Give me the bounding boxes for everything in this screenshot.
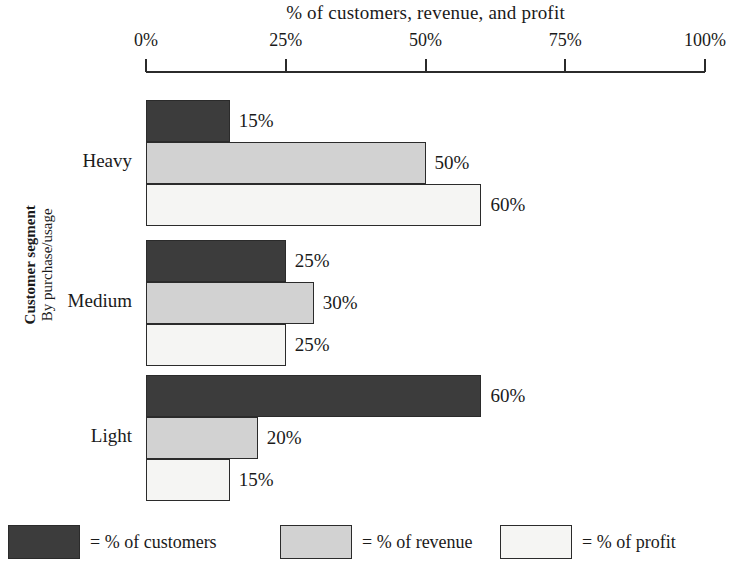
legend-swatch-revenue bbox=[280, 525, 352, 559]
bar-row: 60% bbox=[146, 375, 705, 417]
bar-revenue[interactable] bbox=[146, 142, 426, 184]
bar-group: Light60%20%15% bbox=[0, 375, 735, 501]
legend-label: = % of profit bbox=[582, 532, 676, 553]
bar-value-label: 25% bbox=[286, 334, 330, 356]
bar-group: Medium25%30%25% bbox=[0, 240, 735, 366]
bar-value-label: 30% bbox=[314, 292, 358, 314]
legend-label: = % of customers bbox=[90, 532, 217, 553]
category-label: Light bbox=[0, 425, 132, 447]
bar-customers[interactable] bbox=[146, 240, 286, 282]
bar-value-label: 25% bbox=[286, 250, 330, 272]
bar-row: 30% bbox=[146, 282, 705, 324]
bar-value-label: 15% bbox=[230, 110, 274, 132]
bar-customers[interactable] bbox=[146, 100, 230, 142]
legend-item-customers[interactable]: = % of customers bbox=[8, 524, 217, 560]
legend-label: = % of revenue bbox=[362, 532, 473, 553]
bar-row: 60% bbox=[146, 184, 705, 226]
bar-row: 20% bbox=[146, 417, 705, 459]
bar-row: 15% bbox=[146, 459, 705, 501]
legend-item-revenue[interactable]: = % of revenue bbox=[280, 524, 473, 560]
bar-row: 25% bbox=[146, 240, 705, 282]
bar-value-label: 15% bbox=[230, 469, 274, 491]
bar-customers[interactable] bbox=[146, 375, 481, 417]
plot-area: Heavy15%50%60%Medium25%30%25%Light60%20%… bbox=[0, 0, 735, 505]
bar-row: 50% bbox=[146, 142, 705, 184]
bar-profit[interactable] bbox=[146, 459, 230, 501]
chart-legend: = % of customers= % of revenue= % of pro… bbox=[0, 524, 735, 564]
legend-swatch-customers bbox=[8, 525, 80, 559]
bar-value-label: 60% bbox=[481, 385, 525, 407]
bar-revenue[interactable] bbox=[146, 282, 314, 324]
bar-row: 15% bbox=[146, 100, 705, 142]
bar-row: 25% bbox=[146, 324, 705, 366]
legend-swatch-profit bbox=[500, 525, 572, 559]
bar-profit[interactable] bbox=[146, 184, 481, 226]
bar-profit[interactable] bbox=[146, 324, 286, 366]
bar-value-label: 60% bbox=[481, 194, 525, 216]
legend-item-profit[interactable]: = % of profit bbox=[500, 524, 676, 560]
category-label: Heavy bbox=[0, 150, 132, 172]
bar-value-label: 20% bbox=[258, 427, 302, 449]
bar-group: Heavy15%50%60% bbox=[0, 100, 735, 226]
bar-revenue[interactable] bbox=[146, 417, 258, 459]
bar-value-label: 50% bbox=[426, 152, 470, 174]
category-label: Medium bbox=[0, 290, 132, 312]
